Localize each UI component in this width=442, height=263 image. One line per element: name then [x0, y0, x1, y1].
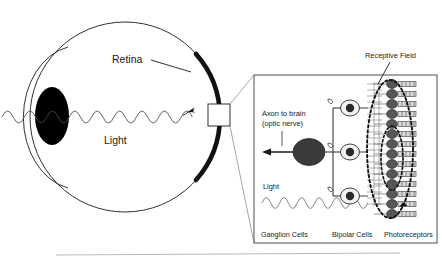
diagram-svg: Retina Light Light Axon to brain (optic … [0, 0, 442, 263]
retina-detail-callout-box[interactable] [208, 104, 230, 126]
column-label-bipolar-cells: Bipolar Cells [332, 230, 373, 239]
axon-label-line2: (optic nerve) [262, 119, 303, 128]
figure-canvas: Retina Light Light Axon to brain (optic … [0, 0, 442, 263]
pupil [35, 87, 69, 145]
inset-panel: Light Axon to brain (optic nerve) [254, 51, 437, 243]
ganglion-cell-body [293, 139, 325, 166]
axon-label-line1: Axon to brain [262, 109, 306, 118]
column-label-ganglion-cells: Ganglion Cells [261, 230, 308, 239]
column-label-photoreceptors: Photoreceptors [384, 230, 433, 239]
retina-leader-line [151, 60, 191, 72]
receptive-field-label: Receptive Field [365, 51, 416, 60]
callout-connector-bottom [230, 126, 254, 243]
retina-label: Retina [112, 53, 143, 65]
horizontal-divider [56, 253, 400, 255]
eye-panel: Retina Light [2, 22, 254, 243]
light-label-eye: Light [104, 134, 127, 146]
light-label-inset: Light [263, 182, 279, 191]
light-wave [2, 111, 192, 123]
callout-connector-top [230, 75, 254, 104]
